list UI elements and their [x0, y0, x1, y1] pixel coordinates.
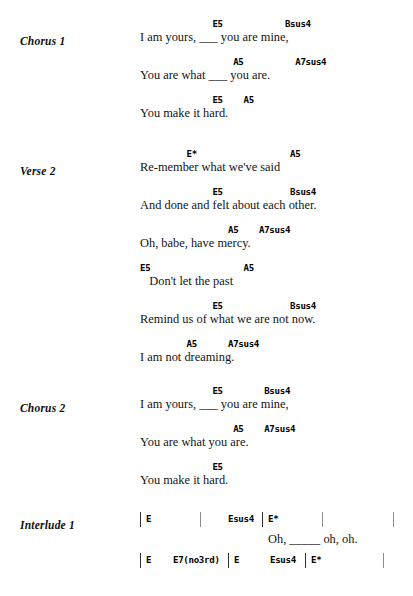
chord-line: E5 A5 [140, 262, 413, 274]
lyric-line: I am yours, ___ you are mine, [140, 30, 413, 44]
section-label-chorus-1: Chorus 1 [20, 35, 65, 47]
chord-lyric-pair: A5 A7sus4 You are what ___ you are. [140, 56, 413, 82]
chord-line: A5 A7sus4 [140, 224, 413, 236]
lyric-line: Re-member what we've said [140, 160, 413, 174]
chord-lyric-pair: E5 A5 Don't let the past [140, 262, 413, 288]
chord-symbol: E* [268, 514, 278, 524]
chord-lyric-pair: E5 You make it hard. [140, 461, 413, 487]
chord-line: A5 A7sus4 [140, 56, 413, 68]
chord-lyric-pair: E* A5 Re-member what we've said [140, 148, 413, 174]
chord-line: A5 A7sus4 [140, 423, 413, 435]
section-label-chorus-2: Chorus 2 [20, 402, 65, 414]
section-label-verse-2: Verse 2 [20, 165, 56, 177]
chord-line: E5 [140, 461, 413, 473]
lyric-line: And done and felt about each other. [140, 198, 413, 212]
barline [305, 553, 306, 568]
chord-lyric-pair: E5 Bsus4 I am yours, ___ you are mine, [140, 18, 413, 44]
chord-lyric-pair: A5 A7sus4 I am not dreaming. [140, 338, 413, 364]
chord-lyric-pair: A5 A7sus4 Oh, babe, have mercy. [140, 224, 413, 250]
barline [140, 553, 141, 568]
lyric-line: Oh, _____ oh, oh. [268, 532, 413, 547]
lyric-line: Don't let the past [140, 274, 413, 288]
chord-line: E5 Bsus4 [140, 385, 413, 397]
lyric-line: You make it hard. [140, 473, 413, 487]
chord-line: A5 A7sus4 [140, 338, 413, 350]
chord-symbol: Esus4 [228, 514, 254, 524]
chord-lyric-pair: E5 A5 You make it hard. [140, 94, 413, 120]
chord-line: E5 Bsus4 [140, 18, 413, 30]
lyric-line: I am yours, ___ you are mine, [140, 397, 413, 411]
chord-symbol: Esus4 [270, 555, 296, 565]
section-label-interlude-1: Interlude 1 [20, 519, 75, 531]
chord-line: E* A5 [140, 148, 413, 160]
chord-line: E5 A5 [140, 94, 413, 106]
lyric-line: You are what ___ you are. [140, 68, 413, 82]
lyric-line: Oh, babe, have mercy. [140, 236, 413, 250]
chord-line: E5 Bsus4 [140, 186, 413, 198]
chord-chart-page: Chorus 1 E5 Bsus4 I am yours, ___ you ar… [0, 0, 413, 596]
measure-row: E Esus4 E* [140, 512, 413, 528]
chord-lyric-pair: E5 Bsus4 And done and felt about each ot… [140, 186, 413, 212]
barline [383, 553, 384, 568]
chord-symbol: E [234, 555, 239, 565]
measure-row: E E7(no3rd) E Esus4 E* [140, 553, 413, 569]
barline [322, 512, 323, 527]
chord-symbol: E [146, 555, 151, 565]
chord-symbol: E7(no3rd) [173, 555, 220, 565]
chord-line: E5 Bsus4 [140, 300, 413, 312]
chord-lyric-pair: E5 Bsus4 Remind us of what we are not no… [140, 300, 413, 326]
barline [228, 553, 229, 568]
chord-lyric-pair: E5 Bsus4 I am yours, ___ you are mine, [140, 385, 413, 411]
barline [140, 512, 141, 527]
barline [200, 512, 201, 527]
lyric-line: You are what you are. [140, 435, 413, 449]
lyric-line: Remind us of what we are not now. [140, 312, 413, 326]
barline [262, 512, 263, 527]
barline [393, 512, 394, 527]
chord-lyric-pair: A5 A7sus4 You are what you are. [140, 423, 413, 449]
lyric-line: I am not dreaming. [140, 350, 413, 364]
lyric-line: You make it hard. [140, 106, 413, 120]
chord-symbol: E [146, 514, 151, 524]
chord-symbol: E* [311, 555, 321, 565]
